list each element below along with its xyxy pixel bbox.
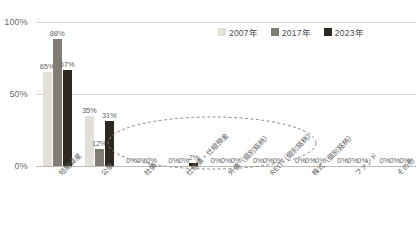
- bar: [95, 149, 104, 166]
- x-label-cell: 外債（個別銘柄）: [205, 168, 247, 237]
- bar-value-label: 67%: [60, 60, 75, 69]
- x-label-cell: ファンド: [332, 168, 374, 237]
- y-tick-100: 100%: [4, 17, 28, 27]
- x-label-cell: 短期資産: [36, 168, 78, 237]
- plot-area: 100% 50% 0% 65%88%67%35%12%31%0%0%0%0%0%…: [36, 22, 416, 167]
- bar-value-label: 31%: [102, 111, 117, 120]
- x-label-cell: その他: [374, 168, 416, 237]
- bar-slot: 0%: [179, 22, 188, 166]
- x-label-cell: REIT（個別銘柄）: [247, 168, 289, 237]
- bar: [63, 70, 72, 166]
- x-axis-labels: 短期資産公債社債仕組債・仕組預金外債（個別銘柄）REIT（個別銘柄）株式（個別銘…: [36, 168, 416, 237]
- bar-slot: 0%: [348, 22, 357, 166]
- x-label-cell: 株式（個別銘柄）: [289, 168, 331, 237]
- bar-slot: 65%: [43, 22, 52, 166]
- bar-slot: 0%: [221, 22, 230, 166]
- x-label-cell: 公債: [78, 168, 120, 237]
- x-label-cell: 仕組債・仕組預金: [163, 168, 205, 237]
- bar-slot: 0%: [380, 22, 389, 166]
- bar: [105, 121, 114, 166]
- bar-slot: 0%: [390, 22, 399, 166]
- y-tick-50: 50%: [9, 89, 28, 99]
- bar-slot: 31%: [105, 22, 114, 166]
- bar-slot: 0%: [127, 22, 136, 166]
- bar-slot: 0%: [400, 22, 409, 166]
- bar-slot: 0%: [147, 22, 156, 166]
- bar: [43, 72, 52, 166]
- bar-slot: 0%: [169, 22, 178, 166]
- bar-slot: 0%: [306, 22, 315, 166]
- bar-slot: 0%: [316, 22, 325, 166]
- bar-group: 0%0%0%: [120, 22, 162, 166]
- bar-group: 0%0%2%: [163, 22, 205, 166]
- bar-group: 0%0%0%: [374, 22, 416, 166]
- bar-slot: 67%: [63, 22, 72, 166]
- bar-slot: 0%: [231, 22, 240, 166]
- y-tick-0: 0%: [15, 161, 28, 171]
- bar-slot: 12%: [95, 22, 104, 166]
- bar: [53, 39, 62, 166]
- bar-slot: 2%: [189, 22, 198, 166]
- bar-slot: 0%: [264, 22, 273, 166]
- bar-groups: 65%88%67%35%12%31%0%0%0%0%0%2%0%0%0%0%0%…: [36, 22, 416, 166]
- bar-group: 35%12%31%: [78, 22, 120, 166]
- bar-slot: 0%: [274, 22, 283, 166]
- bar-slot: 88%: [53, 22, 62, 166]
- bar-slot: 0%: [137, 22, 146, 166]
- bar-group: 65%88%67%: [36, 22, 78, 166]
- bar-slot: 0%: [358, 22, 367, 166]
- x-label-cell: 社債: [120, 168, 162, 237]
- bar-chart: 2007年 2017年 2023年 100% 50% 0% 65%88%67%3…: [0, 0, 420, 237]
